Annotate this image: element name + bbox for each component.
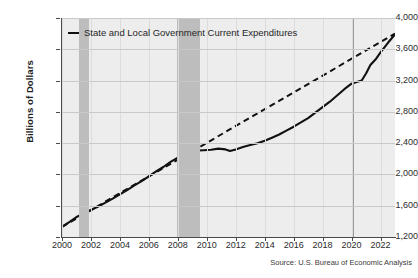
recession-band (353, 18, 354, 237)
x-gridline (120, 18, 121, 237)
series-lines (62, 18, 395, 237)
y-tick-mark (56, 174, 60, 175)
y-tick-mark (56, 206, 60, 207)
x-tick-mark (62, 237, 63, 241)
chart-legend: State and Local Government Current Expen… (68, 27, 297, 38)
y-gridline (62, 143, 395, 144)
x-gridline (352, 18, 353, 237)
y-tick-mark (56, 81, 60, 82)
x-gridline (294, 18, 295, 237)
legend-line-swatch-icon (68, 32, 79, 34)
legend-item-label: State and Local Government Current Expen… (84, 27, 297, 38)
y-gridline (62, 18, 395, 19)
y-tick-mark (56, 18, 60, 19)
x-tick-mark (207, 237, 208, 241)
plot-area (62, 18, 395, 237)
x-tick-mark (265, 237, 266, 241)
y-tick-label: 2,000 (362, 168, 418, 178)
y-tick-label: 3,200 (362, 75, 418, 85)
y-axis-line (61, 18, 62, 238)
x-gridline (323, 18, 324, 237)
x-tick-mark (352, 237, 353, 241)
y-gridline (62, 174, 395, 175)
y-tick-label: 3,600 (362, 43, 418, 53)
y-gridline (62, 81, 395, 82)
x-tick-mark (149, 237, 150, 241)
y-axis-title: Billions of Dollars (24, 27, 35, 177)
x-tick-mark (323, 237, 324, 241)
y-tick-label: 1,600 (362, 200, 418, 210)
x-tick-mark (178, 237, 179, 241)
x-tick-mark (381, 237, 382, 241)
x-gridline (178, 18, 179, 237)
x-gridline (91, 18, 92, 237)
x-gridline (149, 18, 150, 237)
y-gridline (62, 112, 395, 113)
x-axis-line (61, 237, 396, 238)
chart-figure: Billions of Dollars 1,2001,6002,0002,400… (0, 0, 418, 278)
recession-band (177, 18, 199, 237)
x-gridline (265, 18, 266, 237)
y-tick-mark (56, 49, 60, 50)
y-tick-label: 2,400 (362, 137, 418, 147)
y-tick-mark (56, 143, 60, 144)
x-tick-mark (120, 237, 121, 241)
y-tick-mark (56, 237, 60, 238)
y-tick-label: 4,000 (362, 12, 418, 22)
trend-line (62, 34, 395, 227)
source-note: Source: U.S. Bureau of Economic Analysis (270, 258, 412, 267)
y-tick-label: 2,800 (362, 106, 418, 116)
x-gridline (62, 18, 63, 237)
x-tick-mark (294, 237, 295, 241)
y-gridline (62, 206, 395, 207)
y-gridline (62, 49, 395, 50)
x-tick-mark (91, 237, 92, 241)
x-gridline (207, 18, 208, 237)
x-tick-label: 2022 (361, 240, 401, 250)
recession-band (79, 18, 89, 237)
x-gridline (236, 18, 237, 237)
x-tick-mark (236, 237, 237, 241)
y-tick-mark (56, 112, 60, 113)
